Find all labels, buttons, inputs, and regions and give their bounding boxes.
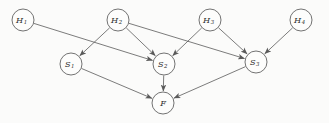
- node-h1[interactable]: H1: [12, 9, 34, 31]
- edge-h1-to-s2: [34, 23, 153, 60]
- node-h4[interactable]: H4: [290, 9, 312, 31]
- node-s1[interactable]: S1: [60, 53, 82, 75]
- edge-h2-to-s1: [80, 28, 110, 56]
- edge-s1-to-f: [82, 68, 152, 98]
- node-h3[interactable]: H3: [199, 9, 221, 31]
- edge-h3-to-s2: [173, 28, 202, 56]
- node-f[interactable]: F: [152, 92, 174, 114]
- node-label-f: F: [159, 98, 166, 108]
- edge-h4-to-s3: [265, 28, 293, 54]
- diagram-canvas: H1H2H3H4S1S2S3F: [0, 0, 329, 123]
- edge-h2-to-s3: [129, 23, 245, 58]
- nodes-layer: H1H2H3H4S1S2S3F: [12, 9, 312, 114]
- graph-svg: H1H2H3H4S1S2S3F: [0, 0, 329, 123]
- node-subscript-s1: 1: [71, 63, 74, 69]
- node-subscript-s3: 3: [256, 61, 260, 67]
- node-subscript-h2: 2: [118, 19, 123, 25]
- node-subscript-h3: 3: [211, 19, 215, 25]
- node-subscript-h4: 4: [301, 19, 306, 25]
- edge-h3-to-s3: [218, 28, 247, 54]
- node-subscript-h1: 1: [24, 19, 27, 25]
- node-s2[interactable]: S2: [153, 53, 175, 75]
- node-h2[interactable]: H2: [107, 9, 129, 31]
- edge-s3-to-f: [174, 67, 246, 99]
- node-subscript-s2: 2: [163, 63, 168, 69]
- node-s3[interactable]: S3: [245, 51, 267, 73]
- edge-h2-to-s2: [126, 28, 155, 56]
